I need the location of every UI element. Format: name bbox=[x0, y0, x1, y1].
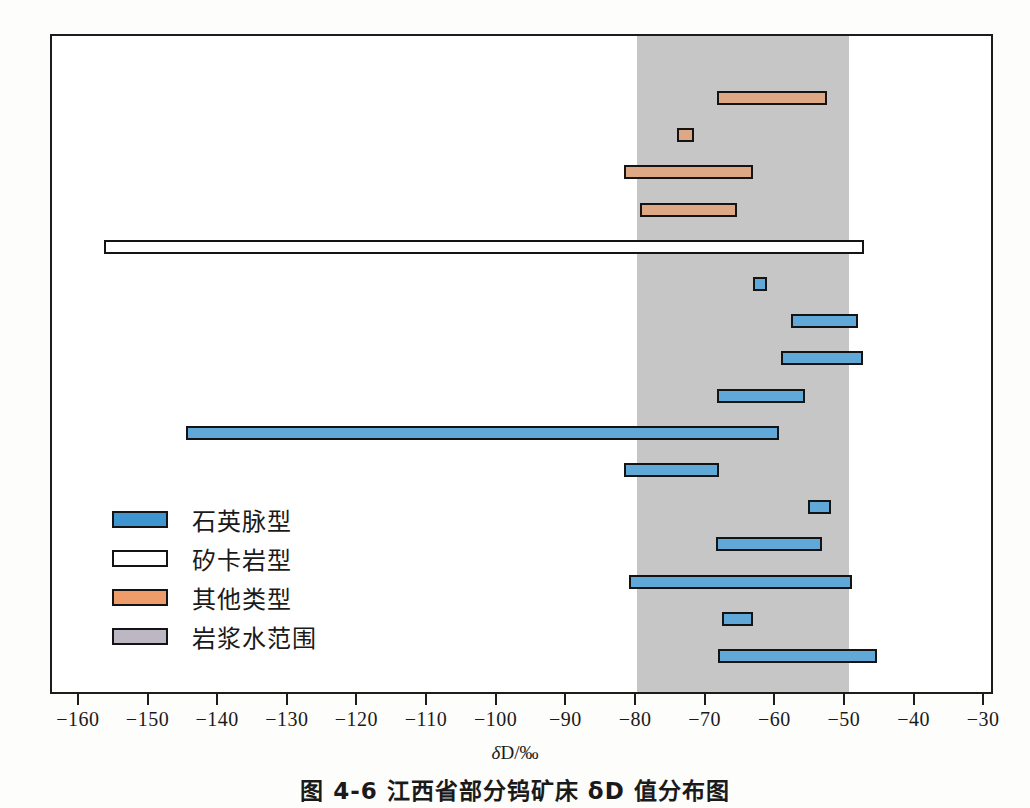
legend-swatch-skarn-icon bbox=[112, 550, 168, 567]
x-tick bbox=[355, 694, 357, 705]
bar-quartz-row-11 bbox=[624, 463, 718, 477]
x-axis: −160−150−140−130−120−110−100−90−80−70−60… bbox=[50, 694, 993, 695]
legend: 石英脉型矽卡岩型其他类型岩浆水范围 bbox=[112, 500, 317, 656]
bar-quartz-row-13 bbox=[716, 537, 822, 551]
x-tick-label: −80 bbox=[619, 708, 652, 731]
legend-label-quartz: 石英脉型 bbox=[192, 502, 292, 537]
figure-container: −160−150−140−130−120−110−100−90−80−70−60… bbox=[0, 0, 1030, 808]
bar-quartz-row-16 bbox=[718, 649, 877, 663]
bar-quartz-row-15 bbox=[722, 612, 753, 626]
x-tick-label: −100 bbox=[474, 708, 517, 731]
x-tick bbox=[425, 694, 427, 705]
bar-quartz-row-14 bbox=[629, 575, 851, 589]
x-tick-label: −50 bbox=[828, 708, 861, 731]
x-tick bbox=[773, 694, 775, 705]
x-tick bbox=[913, 694, 915, 705]
bar-quartz-row-10 bbox=[186, 426, 779, 440]
x-tick-label: −110 bbox=[405, 708, 448, 731]
x-tick-label: −30 bbox=[967, 708, 1000, 731]
x-tick bbox=[147, 694, 149, 705]
x-tick bbox=[495, 694, 497, 705]
caption-text: 图 4-6 江西省部分钨矿床 δD 值分布图 bbox=[300, 778, 729, 804]
legend-item-skarn[interactable]: 矽卡岩型 bbox=[112, 539, 317, 578]
bar-quartz-row-8 bbox=[781, 351, 863, 365]
x-tick-label: −90 bbox=[549, 708, 582, 731]
bar-other-row-3 bbox=[624, 165, 752, 179]
x-tick bbox=[286, 694, 288, 705]
legend-label-magmatic: 岩浆水范围 bbox=[192, 619, 317, 654]
x-tick-label: −130 bbox=[265, 708, 308, 731]
figure-caption: 图 4-6 江西省部分钨矿床 δD 值分布图 bbox=[0, 772, 1030, 806]
x-tick-label: −140 bbox=[196, 708, 239, 731]
legend-item-quartz[interactable]: 石英脉型 bbox=[112, 500, 317, 539]
bar-quartz-row-12 bbox=[808, 500, 831, 514]
bar-quartz-row-7 bbox=[791, 314, 858, 328]
bar-other-row-2 bbox=[677, 128, 694, 142]
bar-other-row-1 bbox=[717, 91, 827, 105]
bar-other-row-4 bbox=[640, 203, 738, 217]
bar-quartz-row-9 bbox=[717, 389, 805, 403]
legend-swatch-quartz-icon bbox=[112, 511, 168, 528]
x-tick-label: −150 bbox=[126, 708, 169, 731]
x-tick bbox=[982, 694, 984, 705]
x-axis-title: δD/‰ bbox=[0, 742, 1030, 764]
legend-item-magmatic[interactable]: 岩浆水范围 bbox=[112, 617, 317, 656]
legend-item-other[interactable]: 其他类型 bbox=[112, 578, 317, 617]
x-tick-label: −120 bbox=[335, 708, 378, 731]
bar-quartz-row-6 bbox=[753, 277, 767, 291]
x-axis-title-rest: D/‰ bbox=[500, 742, 538, 763]
x-tick-label: −60 bbox=[758, 708, 791, 731]
legend-label-other: 其他类型 bbox=[192, 580, 292, 615]
x-tick bbox=[843, 694, 845, 705]
legend-swatch-other-icon bbox=[112, 589, 168, 606]
x-tick bbox=[77, 694, 79, 705]
legend-swatch-magmatic-icon bbox=[112, 628, 168, 645]
x-tick-label: −70 bbox=[688, 708, 721, 731]
x-tick-label: −160 bbox=[56, 708, 99, 731]
x-tick bbox=[704, 694, 706, 705]
legend-label-skarn: 矽卡岩型 bbox=[192, 541, 292, 576]
bar-skarn-row-5 bbox=[104, 240, 864, 254]
x-tick bbox=[564, 694, 566, 705]
x-tick bbox=[216, 694, 218, 705]
x-tick-label: −40 bbox=[897, 708, 930, 731]
x-tick bbox=[634, 694, 636, 705]
